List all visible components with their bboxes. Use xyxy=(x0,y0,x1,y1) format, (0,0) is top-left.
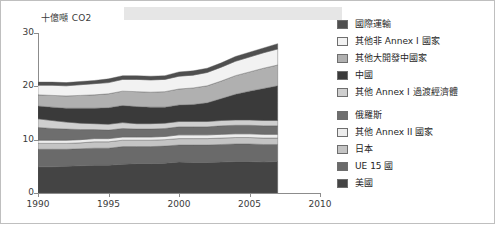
legend-item-other-large-developing[interactable]: 其他大開發中國家 xyxy=(337,50,492,66)
plot-area xyxy=(38,33,320,193)
legend-swatch-icon xyxy=(337,128,348,137)
legend-item-other-non-annex-i[interactable]: 其他非 Annex I 國家 xyxy=(337,33,492,49)
chart-legend: 國際運輸其他非 Annex I 國家其他大開發中國家中國其他 Annex I 過… xyxy=(337,16,492,192)
legend-label: 其他 Annex II 國家 xyxy=(355,127,433,138)
legend-swatch-icon xyxy=(337,162,348,171)
y-axis-tick-label: 10 xyxy=(0,134,34,144)
legend-swatch-icon xyxy=(337,179,348,188)
legend-label: 其他大開發中國家 xyxy=(355,53,427,64)
legend-item-other-annex-i-transition[interactable]: 其他 Annex I 過渡經濟體 xyxy=(337,84,492,100)
legend-item-china[interactable]: 中國 xyxy=(337,67,492,83)
legend-item-russia[interactable]: 俄羅斯 xyxy=(337,107,492,123)
legend-item-other-annex-ii[interactable]: 其他 Annex II 國家 xyxy=(337,124,492,140)
legend-swatch-icon xyxy=(337,88,348,97)
legend-item-eu-15[interactable]: UE 15 國 xyxy=(337,158,492,174)
legend-label: 俄羅斯 xyxy=(355,110,382,121)
area-band xyxy=(38,162,278,193)
legend-item-usa[interactable]: 美國 xyxy=(337,175,492,191)
x-axis-tick-label: 2005 xyxy=(238,199,261,209)
x-axis-tick xyxy=(38,193,39,197)
legend-label: 國際運輸 xyxy=(355,19,391,30)
x-axis-tick-label: 2010 xyxy=(309,199,332,209)
x-axis-tick-label: 1990 xyxy=(27,199,50,209)
y-axis-tick-label: 30 xyxy=(0,27,34,37)
legend-label: 其他非 Annex I 國家 xyxy=(355,36,440,47)
x-axis-tick xyxy=(109,193,110,197)
x-axis-tick-label: 2000 xyxy=(168,199,191,209)
legend-swatch-icon xyxy=(337,111,348,120)
legend-item-japan[interactable]: 日本 xyxy=(337,141,492,157)
stacked-area-chart: 十億噸 CO2 0102030 19901995200020052010 xyxy=(0,0,330,225)
y-axis-tick-label: 20 xyxy=(0,80,34,90)
legend-label: 中國 xyxy=(355,70,373,81)
x-axis-tick xyxy=(179,193,180,197)
x-axis-tick-label: 1995 xyxy=(97,199,120,209)
area-series-group xyxy=(38,33,320,193)
x-axis-tick xyxy=(250,193,251,197)
legend-swatch-icon xyxy=(337,37,348,46)
chart-figure: 十億噸 CO2 0102030 19901995200020052010 國際運… xyxy=(0,0,496,225)
legend-label: 其他 Annex I 過渡經濟體 xyxy=(355,87,458,98)
legend-swatch-icon xyxy=(337,145,348,154)
legend-label: 美國 xyxy=(355,178,373,189)
y-axis-tick-label: 0 xyxy=(0,187,34,197)
legend-swatch-icon xyxy=(337,71,348,80)
x-axis-tick xyxy=(320,193,321,197)
legend-label: 日本 xyxy=(355,144,373,155)
legend-swatch-icon xyxy=(337,20,348,29)
legend-label: UE 15 國 xyxy=(355,161,393,172)
y-axis-title: 十億噸 CO2 xyxy=(41,11,91,24)
legend-item-international-transport[interactable]: 國際運輸 xyxy=(337,16,492,32)
legend-swatch-icon xyxy=(337,54,348,63)
